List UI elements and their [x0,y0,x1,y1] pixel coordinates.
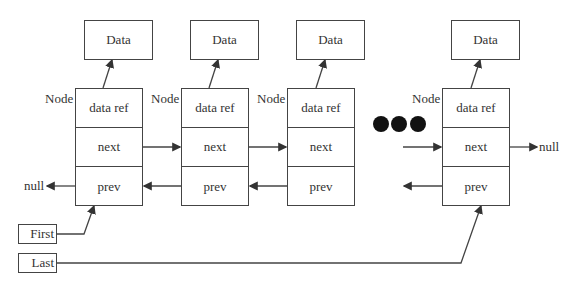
data-box-1: Data [84,20,153,60]
node-label-2: Node [151,91,179,107]
node-label-1: Node [45,91,73,107]
node-2-prev: prev [182,167,248,206]
first-pointer-box: First [18,224,57,244]
node-1-next: next [76,128,142,167]
node-1-prev: prev [76,167,142,206]
last-pointer-arrow [57,206,481,263]
node-3-next: next [288,128,354,167]
node-4-prev: prev [443,167,509,206]
node-2: data ref next prev [181,88,249,206]
node-4-data-ref: data ref [443,89,509,128]
null-right-label: null [539,139,559,155]
node-1-data-ref: data ref [76,89,142,128]
node-2-next: next [182,128,248,167]
node-1: data ref next prev [75,88,143,206]
node-3-prev: prev [288,167,354,206]
node-3: data ref next prev [287,88,355,206]
ellipsis-dot-1 [373,116,389,132]
data-ref-arrow-3 [316,60,325,88]
last-pointer-box: Last [18,253,57,273]
data-box-4: Data [451,20,520,60]
first-pointer-arrow [57,206,94,234]
null-left-label: null [24,178,44,194]
data-box-3: Data [296,20,365,60]
ellipsis-dot-2 [391,116,407,132]
node-label-3: Node [257,91,285,107]
data-ref-arrow-4 [471,60,480,88]
data-box-2: Data [190,20,259,60]
node-4: data ref next prev [442,88,510,206]
data-ref-arrow-1 [103,60,112,88]
ellipsis-dot-3 [410,116,426,132]
node-4-next: next [443,128,509,167]
node-label-4: Node [412,91,440,107]
data-ref-arrow-2 [209,60,218,88]
node-3-data-ref: data ref [288,89,354,128]
node-2-data-ref: data ref [182,89,248,128]
